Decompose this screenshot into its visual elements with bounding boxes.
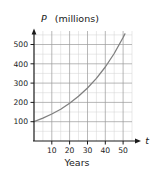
- x-tick-label-20: 20: [65, 146, 75, 155]
- x-tick-label-40: 40: [100, 146, 110, 155]
- y-tick-label-400: 400: [14, 60, 29, 69]
- y-tick-label-100: 100: [14, 117, 29, 126]
- x-tick-label-50: 50: [118, 146, 128, 155]
- y-axis-variable: P: [41, 13, 47, 24]
- exponential-growth-chart: 100 200 300 400 500 10 20 30 40 50 P (mi…: [0, 0, 160, 171]
- y-tick-label-200: 200: [14, 98, 29, 107]
- x-axis-title: Years: [63, 157, 89, 168]
- y-axis-unit: (millions): [55, 13, 99, 24]
- x-tick-label-30: 30: [83, 146, 93, 155]
- chart-figure: 100 200 300 400 500 10 20 30 40 50 P (mi…: [0, 0, 160, 171]
- y-tick-label-500: 500: [14, 40, 29, 49]
- y-tick-label-300: 300: [14, 79, 29, 88]
- x-tick-label-10: 10: [47, 146, 57, 155]
